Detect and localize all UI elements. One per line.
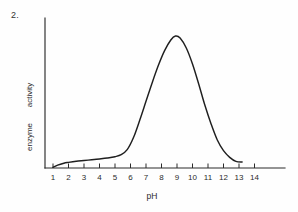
x-axis-tick-marks xyxy=(53,164,255,169)
x-tick-label: 5 xyxy=(113,173,118,182)
x-axis-tick-labels: 1234567891011121314 xyxy=(51,173,260,182)
x-tick-label: 10 xyxy=(188,173,197,182)
x-tick-label: 4 xyxy=(97,173,102,182)
figure-container: 2. activity enzyme 1234567891011121314 p… xyxy=(0,0,298,212)
x-tick-label: 11 xyxy=(204,173,213,182)
y-axis-word-enzyme: enzyme xyxy=(25,122,34,151)
x-tick-label: 2 xyxy=(66,173,71,182)
x-tick-label: 12 xyxy=(219,173,228,182)
x-tick-label: 13 xyxy=(235,173,244,182)
y-axis-labels: activity enzyme xyxy=(25,83,34,151)
x-tick-label: 8 xyxy=(159,173,164,182)
enzyme-activity-curve xyxy=(53,36,242,167)
x-tick-label: 6 xyxy=(128,173,133,182)
x-tick-label: 9 xyxy=(175,173,180,182)
x-tick-label: 1 xyxy=(51,173,56,182)
x-tick-label: 3 xyxy=(82,173,87,182)
y-axis-word-activity: activity xyxy=(25,83,34,107)
x-tick-label: 14 xyxy=(250,173,259,182)
x-tick-label: 7 xyxy=(144,173,149,182)
enzyme-activity-ph-chart: activity enzyme 1234567891011121314 pH xyxy=(0,0,298,212)
x-axis-title: pH xyxy=(147,191,158,201)
